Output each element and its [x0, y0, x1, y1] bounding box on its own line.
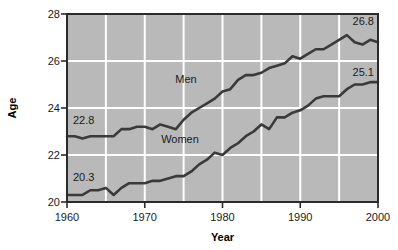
series-label-women: Women — [161, 133, 199, 145]
x-axis-title: Year — [211, 231, 235, 243]
value-label-women-end: 25.1 — [353, 66, 374, 78]
x-tick-label-1970: 1970 — [133, 211, 157, 223]
x-tick-label-1990: 1990 — [288, 211, 312, 223]
series-label-men: Men — [175, 73, 196, 85]
x-tick-label-2000: 2000 — [366, 211, 390, 223]
x-tick-label-1960: 1960 — [55, 211, 79, 223]
x-tick-label-1980: 1980 — [210, 211, 234, 223]
value-label-women-start: 20.3 — [73, 171, 94, 183]
y-tick-label-20: 20 — [48, 196, 60, 208]
y-tick-label-24: 24 — [48, 102, 60, 114]
y-tick-label-26: 26 — [48, 55, 60, 67]
y-tick-label-22: 22 — [48, 149, 60, 161]
value-label-men-start: 22.8 — [73, 114, 94, 126]
value-label-men-end: 26.8 — [353, 15, 374, 27]
y-axis-title: Age — [6, 98, 18, 119]
y-tick-label-28: 28 — [48, 8, 60, 20]
line-chart: 28 26 24 22 20 1960 1970 1980 1990 2000 … — [0, 0, 398, 250]
chart-container: 28 26 24 22 20 1960 1970 1980 1990 2000 … — [0, 0, 398, 250]
